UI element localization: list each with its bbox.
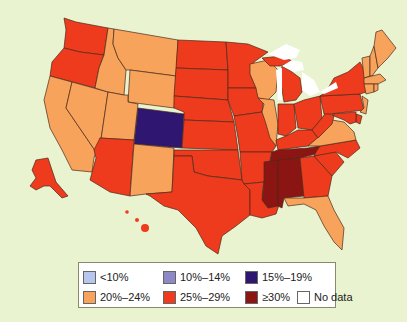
legend-item-10-14: 10%–14% <box>163 271 245 284</box>
state-ND <box>176 40 228 70</box>
state-AK <box>30 158 68 198</box>
legend-swatch <box>163 291 176 304</box>
state-RI <box>374 84 378 92</box>
state-CO <box>134 108 184 148</box>
state-AZ <box>90 138 134 196</box>
state-PA <box>320 94 364 114</box>
state-CT <box>364 84 374 94</box>
legend-item-gte30: ≥30% <box>245 291 297 304</box>
great-lakes <box>268 44 338 100</box>
legend-item-20-24: 20%–24% <box>83 291 163 304</box>
legend-swatch <box>83 271 96 284</box>
state-HI <box>141 224 149 232</box>
legend-swatch <box>245 291 258 304</box>
legend-item-nodata: No data <box>297 291 353 304</box>
legend-swatch <box>245 271 258 284</box>
legend-label: No data <box>314 291 353 303</box>
state-MS <box>262 160 278 208</box>
state-NM <box>130 144 174 196</box>
legend-label: <10% <box>100 271 128 283</box>
legend-row-2: 20%–24% 25%–29% ≥30% No data <box>83 289 353 305</box>
state-WY <box>128 70 176 108</box>
state-HI-3 <box>125 210 129 214</box>
state-MI <box>280 66 302 102</box>
legend-label: 10%–14% <box>180 271 230 283</box>
state-KS <box>182 120 238 150</box>
state-HI-2 <box>135 218 139 222</box>
state-IN <box>278 104 296 136</box>
legend-swatch <box>83 291 96 304</box>
state-DE <box>356 114 362 124</box>
legend: <10% 10%–14% 15%–19% 20%–24% 25%–29% ≥30… <box>78 262 336 308</box>
legend-row-1: <10% 10%–14% 15%–19% <box>83 269 312 285</box>
legend-item-25-29: 25%–29% <box>163 291 245 304</box>
us-choropleth-map <box>0 0 407 260</box>
legend-label: 25%–29% <box>180 291 230 303</box>
state-SD <box>174 68 228 100</box>
state-FL <box>284 196 344 250</box>
state-ME <box>374 30 396 68</box>
legend-swatch <box>297 291 310 304</box>
legend-swatch <box>163 271 176 284</box>
legend-label: 20%–24% <box>100 291 150 303</box>
legend-item-15-19: 15%–19% <box>245 271 312 284</box>
legend-label: 15%–19% <box>262 271 312 283</box>
legend-item-lt10: <10% <box>83 271 163 284</box>
legend-label: ≥30% <box>262 291 290 303</box>
